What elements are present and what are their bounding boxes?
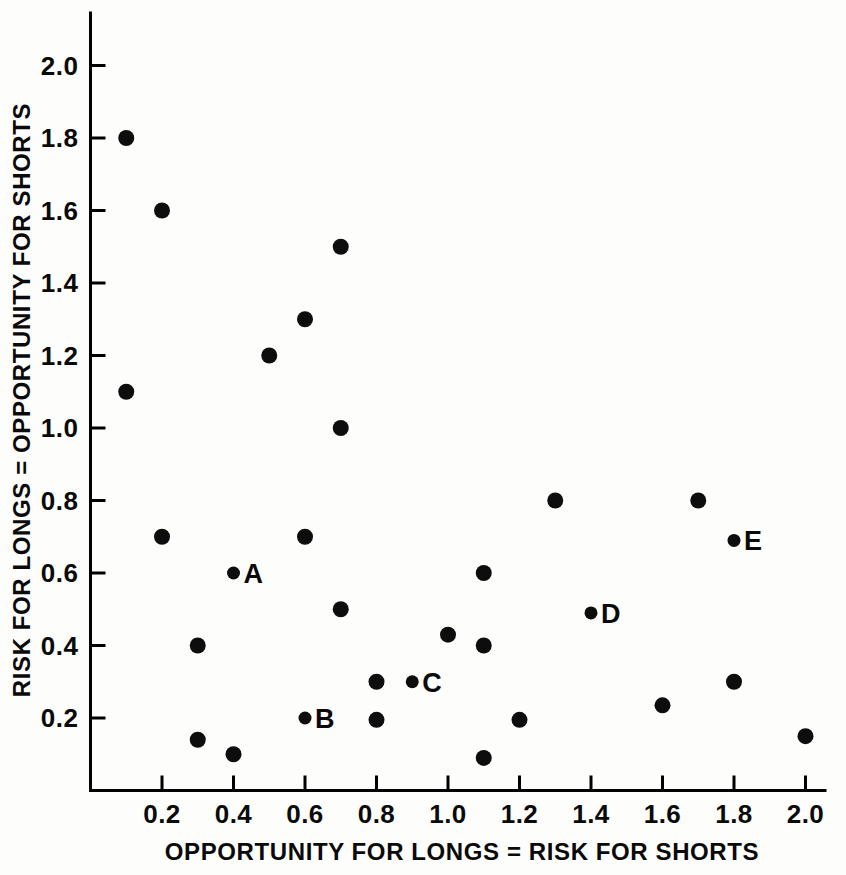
y-tick-label-0.4: 0.4 <box>41 631 79 661</box>
data-point <box>297 529 313 545</box>
y-tick-label-1.6: 1.6 <box>41 196 79 226</box>
axis-titles: OPPORTUNITY FOR LONGS = RISK FOR SHORTS … <box>8 103 759 865</box>
y-tick-label-1.2: 1.2 <box>41 341 79 371</box>
data-point <box>440 627 456 643</box>
data-point <box>190 732 206 748</box>
plot-canvas: 0.20.40.60.81.01.21.41.61.82.00.20.40.60… <box>0 0 846 875</box>
y-tick-label-2.0: 2.0 <box>41 51 79 81</box>
data-point <box>406 675 419 688</box>
data-point <box>333 601 349 617</box>
data-point <box>512 712 528 728</box>
x-tick-label-1.2: 1.2 <box>501 799 539 829</box>
data-point <box>190 638 206 654</box>
point-label-D: D <box>601 599 621 629</box>
data-point <box>154 529 170 545</box>
data-point <box>154 203 170 219</box>
data-point <box>369 712 385 728</box>
data-point <box>476 750 492 766</box>
x-tick-label-0.2: 0.2 <box>143 799 181 829</box>
scatter-plot-figure: 0.20.40.60.81.01.21.41.61.82.00.20.40.60… <box>0 0 846 875</box>
data-point <box>297 311 313 327</box>
x-tick-label-1.0: 1.0 <box>429 799 467 829</box>
y-tick-label-1.8: 1.8 <box>41 123 79 153</box>
y-tick-label-1.0: 1.0 <box>41 413 79 443</box>
data-point <box>261 348 277 364</box>
tick-marks <box>91 66 806 791</box>
data-point <box>227 567 240 580</box>
data-point <box>585 606 598 619</box>
y-tick-label-0.2: 0.2 <box>41 703 79 733</box>
data-point <box>476 638 492 654</box>
x-tick-label-2.0: 2.0 <box>787 799 825 829</box>
data-point <box>333 420 349 436</box>
data-point <box>333 239 349 255</box>
x-tick-label-0.8: 0.8 <box>358 799 396 829</box>
x-tick-label-1.4: 1.4 <box>572 799 610 829</box>
y-tick-label-0.8: 0.8 <box>41 486 79 516</box>
x-axis-title: OPPORTUNITY FOR LONGS = RISK FOR SHORTS <box>165 838 759 865</box>
data-points <box>118 130 813 766</box>
data-point <box>299 712 312 725</box>
data-point <box>728 534 741 547</box>
data-point <box>369 674 385 690</box>
y-tick-label-1.4: 1.4 <box>41 268 79 298</box>
tick-labels: 0.20.40.60.81.01.21.41.61.82.00.20.40.60… <box>41 51 824 829</box>
data-point <box>655 697 671 713</box>
axes <box>91 13 826 791</box>
data-point <box>547 493 563 509</box>
data-point <box>118 384 134 400</box>
point-label-E: E <box>744 526 762 556</box>
x-tick-label-0.6: 0.6 <box>286 799 324 829</box>
point-label-A: A <box>244 559 264 589</box>
y-tick-label-0.6: 0.6 <box>41 558 79 588</box>
x-tick-label-1.8: 1.8 <box>715 799 753 829</box>
x-tick-label-1.6: 1.6 <box>644 799 682 829</box>
data-point <box>476 565 492 581</box>
point-annotations: EADCB <box>244 526 763 734</box>
data-point <box>118 130 134 146</box>
data-point <box>226 746 242 762</box>
data-point <box>690 493 706 509</box>
data-point <box>798 728 814 744</box>
y-axis-title: RISK FOR LONGS = OPPORTUNITY FOR SHORTS <box>8 103 35 697</box>
data-point <box>726 674 742 690</box>
point-label-B: B <box>315 704 335 734</box>
x-tick-label-0.4: 0.4 <box>215 799 253 829</box>
point-label-C: C <box>422 668 442 698</box>
